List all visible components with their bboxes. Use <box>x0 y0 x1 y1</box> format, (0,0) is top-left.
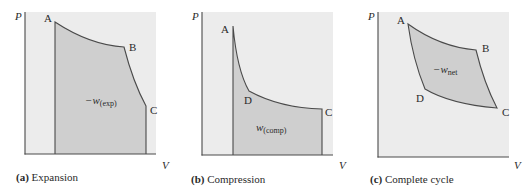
point-label-c: C <box>150 104 157 116</box>
point-label-a: A <box>221 23 229 35</box>
point-label-a: A <box>397 14 405 26</box>
panel-expansion: P V A B C −w(exp) (a) Expansion <box>14 10 170 184</box>
point-label-d: D <box>416 92 424 104</box>
y-axis-label: P <box>367 10 375 22</box>
y-axis-label: P <box>191 10 199 22</box>
pv-diagram-figure: P V A B C −w(exp) (a) Expansion P V A D … <box>0 0 523 194</box>
point-label-b: B <box>129 41 136 53</box>
point-label-c: C <box>325 106 332 118</box>
x-axis-label: V <box>162 159 170 171</box>
x-axis-label: V <box>514 159 522 171</box>
panel-complete-cycle: P V A B C D −wnet (c) Complete cycle <box>367 10 522 186</box>
caption-compression: (b) Compression <box>191 173 266 186</box>
caption-expansion: (a) Expansion <box>16 171 79 184</box>
point-label-c: C <box>502 106 509 118</box>
panel-compression: P V A D C w(comp) (b) Compression <box>191 10 347 186</box>
y-axis-label: P <box>14 10 22 22</box>
point-label-b: B <box>482 42 489 54</box>
x-axis-label: V <box>339 159 347 171</box>
point-label-a: A <box>44 12 52 24</box>
point-label-d: D <box>244 94 252 106</box>
caption-complete-cycle: (c) Complete cycle <box>370 173 454 186</box>
